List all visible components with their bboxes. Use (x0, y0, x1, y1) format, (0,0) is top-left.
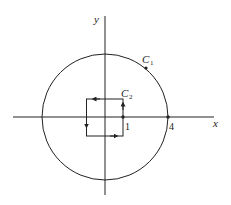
c1-orientation-dot (144, 66, 147, 69)
point-1-label: 1 (125, 121, 130, 132)
c2-subscript: 2 (129, 93, 133, 101)
diagram-canvas: y x C 1 C 2 1 4 (0, 0, 231, 205)
point-1 (121, 115, 124, 118)
c1-subscript: 1 (150, 59, 154, 67)
c1-label: C (142, 53, 150, 65)
y-axis-label: y (93, 13, 99, 25)
x-axis-label: x (212, 117, 218, 129)
point-4 (166, 115, 169, 118)
contour-diagram: y x C 1 C 2 1 4 (0, 0, 231, 205)
c2-label: C (121, 87, 129, 99)
point-4-label: 4 (169, 121, 174, 132)
